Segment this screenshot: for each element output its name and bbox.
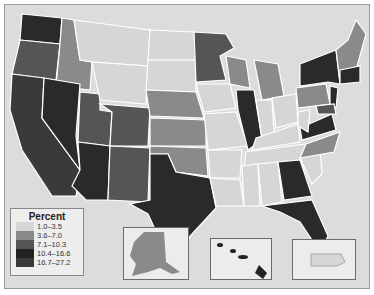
state-alabama [258,162,282,206]
state-pennsylvania [296,84,330,108]
inset-alaska [123,227,189,280]
state-south-dakota [146,60,196,92]
state-wisconsin [226,56,250,88]
state-washington [20,14,62,44]
legend-item: 7.1–10.3 [16,240,83,249]
state-louisiana [210,178,244,206]
state-arkansas [208,150,242,178]
inset-hawaii [210,238,272,280]
legend-title: Percent [11,211,83,222]
legend-item: 16.7–27.2 [16,258,83,267]
legend-item: 1.0–3.5 [16,222,83,231]
state-iowa [196,84,236,112]
state-new-mexico [108,146,150,202]
state-michigan [254,60,284,100]
state-north-dakota [148,30,196,60]
state-new-york [300,50,340,86]
inset-puerto-rico [292,239,356,280]
state-wyoming [92,62,148,104]
state-montana [74,20,150,66]
state-nebraska [146,90,204,118]
state-ohio [272,94,298,128]
state-maryland [316,104,336,114]
state-oregon [12,40,60,80]
legend-item: 10.4–16.6 [16,249,83,258]
legend: Percent 1.0–3.5 3.6–7.0 7.1–10.3 10.4–16… [10,208,84,276]
state-kansas [150,118,206,146]
state-mississippi [242,164,260,206]
legend-item: 3.6–7.0 [16,231,83,240]
